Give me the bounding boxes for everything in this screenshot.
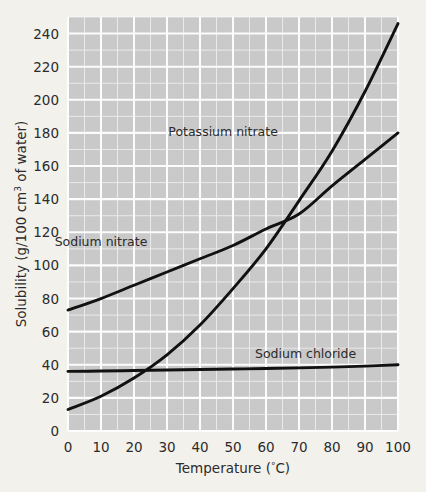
x-tick-label: 50: [224, 439, 241, 455]
x-tick-label: 30: [158, 439, 175, 455]
y-tick-label: 0: [50, 423, 59, 439]
x-tick-label: 0: [64, 439, 73, 455]
x-tick-label: 60: [257, 439, 274, 455]
y-tick-label: 240: [33, 26, 59, 42]
y-tick-label: 100: [33, 257, 59, 273]
y-tick-label: 60: [42, 324, 59, 340]
x-axis-title-main: Temperature (: [175, 460, 271, 476]
x-tick-label: 10: [92, 439, 109, 455]
y-tick-label: 80: [42, 291, 59, 307]
x-tick-label: 40: [191, 439, 208, 455]
series-label-potassium-nitrate: Potassium nitrate: [168, 124, 278, 139]
y-axis-title-tail: of water): [13, 121, 29, 186]
series-label-sodium-chloride: Sodium chloride: [255, 346, 357, 361]
y-tick-label: 40: [42, 357, 59, 373]
y-axis-title-main: Solubility (g/100 cm: [13, 192, 29, 328]
x-tick-label: 100: [385, 439, 411, 455]
y-tick-label: 20: [42, 390, 59, 406]
x-axis-title-tail: C): [275, 460, 290, 476]
y-tick-label: 220: [33, 59, 59, 75]
chart-figure: 020406080100120140160180200220240 010203…: [0, 0, 426, 492]
y-tick-label: 200: [33, 92, 59, 108]
series-label-sodium-nitrate: Sodium nitrate: [55, 234, 148, 249]
y-axis-title: Solubility (g/100 cm3 of water): [13, 121, 29, 328]
y-tick-label: 180: [33, 125, 59, 141]
solubility-chart-svg: 020406080100120140160180200220240 010203…: [0, 0, 426, 492]
x-tick-label: 80: [323, 439, 340, 455]
x-tick-label: 70: [290, 439, 307, 455]
y-tick-label: 140: [33, 191, 59, 207]
x-tick-label: 90: [356, 439, 373, 455]
y-tick-label: 160: [33, 158, 59, 174]
x-tick-label: 20: [125, 439, 142, 455]
